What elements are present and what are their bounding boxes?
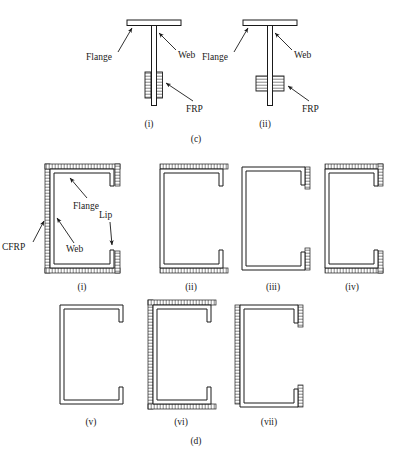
leader-web-d-i	[57, 218, 74, 243]
cfrp-bottom-flange-d-vi	[148, 404, 216, 409]
caption-d-v: (v)	[85, 417, 96, 428]
label-lip-d-i: Lip	[99, 210, 112, 220]
cfrp-top-lip-d-vii	[298, 305, 303, 327]
channel-ii: (ii)	[160, 164, 228, 293]
cfrp-bottom-lip-d-vii	[298, 385, 303, 407]
leader-lip-d-i	[110, 222, 112, 245]
flange-i	[127, 20, 181, 26]
leader-cfrp-d-i	[33, 221, 44, 242]
cfrp-bottom-lip-d-i	[115, 251, 120, 273]
label-web-ii: Web	[294, 50, 311, 60]
cfrp-bottom-lip-d-iii	[305, 248, 310, 270]
leader-web-ii	[275, 33, 292, 50]
frp-patch-ii-left	[256, 76, 268, 91]
caption-d-iii: (iii)	[266, 282, 280, 293]
caption-c-ii: (ii)	[259, 119, 271, 130]
cfrp-bottom-flange-d-i	[45, 268, 120, 273]
label-cfrp-d-i: CFRP	[2, 242, 25, 252]
channel-iii: (iii)	[242, 167, 310, 293]
frp-strip-i-right	[157, 72, 163, 98]
tsection-i: Flange Web FRP (i)	[86, 20, 203, 130]
steel-outline-d-iv	[325, 169, 378, 268]
web-i	[152, 26, 157, 106]
channel-vii: (vii)	[235, 305, 303, 428]
label-frp-ii: FRP	[302, 104, 319, 114]
caption-d-iv: (iv)	[345, 282, 359, 293]
tsection-ii: Flange Web FRP (ii)	[202, 20, 319, 130]
leader-web-i	[159, 33, 176, 50]
frp-strip-i-left	[145, 72, 151, 98]
steel-outline-d-vii	[240, 305, 298, 407]
cfrp-web-d-vii	[235, 305, 240, 404]
label-flange-d-i: Flange	[73, 201, 99, 211]
cfrp-web-d-vi	[148, 300, 153, 409]
label-web-i: Web	[178, 50, 195, 60]
caption-d-i: (i)	[78, 282, 87, 293]
steel-outline-d-vi	[153, 305, 211, 404]
label-flange-i: Flange	[86, 52, 112, 62]
cfrp-top-lip-d-i	[115, 164, 120, 186]
cfrp-web-d-i	[45, 164, 50, 273]
caption-c-i: (i)	[145, 119, 154, 130]
caption-d-ii: (ii)	[185, 282, 197, 293]
leader-flange-d-i	[70, 178, 87, 198]
leader-frp-ii	[288, 86, 309, 101]
steel-outline-d-iii	[242, 167, 305, 270]
channel-iv: (iv)	[325, 164, 383, 293]
cfrp-top-flange-d-vi	[148, 300, 216, 305]
cfrp-top-flange-d-i	[45, 164, 120, 169]
channel-i: CFRP Web Flange Lip (i)	[2, 164, 120, 293]
label-flange-ii: Flange	[202, 52, 228, 62]
label-frp-i: FRP	[186, 104, 203, 114]
cfrp-bottom-lip-d-iv	[378, 251, 383, 273]
cfrp-top-lip-d-iii	[305, 167, 310, 189]
steel-outline-d-v	[60, 305, 123, 404]
leader-flange-ii	[234, 28, 248, 52]
panel-d: CFRP Web Flange Lip (i) (ii) (iii)	[2, 164, 383, 447]
flange-ii	[243, 20, 297, 26]
cfrp-top-flange-d-iv	[325, 164, 383, 169]
panel-c: Flange Web FRP (i) Flange Web FRP (ii) (…	[86, 20, 319, 145]
cfrp-top-flange-d-ii	[160, 164, 228, 169]
cfrp-bottom-flange-d-ii	[160, 268, 228, 273]
channel-vi: (vi)	[148, 300, 216, 428]
leader-frp-i	[166, 83, 193, 101]
cfrp-bottom-flange-d-iv	[325, 268, 383, 273]
figure-container: Flange Web FRP (i) Flange Web FRP (ii) (…	[0, 0, 393, 462]
frp-patch-ii-right	[273, 76, 285, 91]
leader-flange-i	[118, 28, 132, 52]
cfrp-top-lip-d-iv	[378, 164, 383, 186]
caption-d-vi: (vi)	[174, 417, 188, 428]
caption-panel-d: (d)	[190, 436, 201, 447]
caption-d-vii: (vii)	[261, 417, 277, 428]
label-web-d-i: Web	[66, 244, 83, 254]
web-ii	[268, 26, 273, 106]
steel-outline-d-ii	[160, 169, 223, 268]
channel-v: (v)	[60, 305, 123, 428]
caption-panel-c: (c)	[191, 134, 202, 145]
